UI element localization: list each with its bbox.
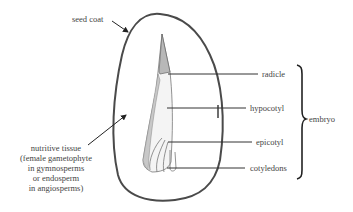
epicotyl-label: epicotyl (256, 137, 283, 147)
radicle-label: radicle (262, 69, 285, 79)
cotyledons-label: cotyledons (250, 163, 287, 173)
seed-diagram: seed coat radicle hypocotyl epicotyl cot… (0, 0, 353, 212)
embryo-brace (297, 65, 306, 179)
seed-coat-arrow (112, 21, 128, 32)
hypocotyl-label: hypocotyl (250, 103, 284, 113)
radicle-shape (159, 34, 170, 74)
embryo-label: embryo (309, 114, 335, 124)
nutritive-tissue-arrow (88, 115, 126, 145)
nutritive-tissue-label: nutritive tissue (female gametophyte in … (14, 143, 98, 193)
seed-coat-label: seed coat (72, 14, 103, 24)
